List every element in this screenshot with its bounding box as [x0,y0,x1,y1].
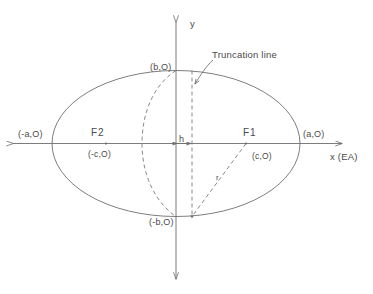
radius-line-r [192,144,246,217]
x-axis-label: x (EA) [330,152,358,162]
focus-1-label: F1 [243,128,257,138]
focus-1-marker [245,142,247,144]
focus-1-coordinate-label: (c,O) [252,152,272,161]
top-vertex-label: (b,O) [150,63,172,72]
diagram-canvas [0,0,373,294]
focus-2-marker [105,142,107,144]
focus-2-coordinate-label: (-c,O) [88,150,111,159]
y-axis-label: y [190,19,195,29]
right-vertex-label: (a,O) [303,130,325,139]
ellipse-truncation-diagram: y x (EA) Truncation line (b,O) (-b,O) (-… [0,0,373,294]
r-dimension-label: r [216,174,219,182]
truncation-line-label: Truncation line [212,50,277,60]
focus-2-label: F2 [91,128,105,138]
h-dimension-label: h [179,135,184,144]
left-vertex-label: (-a,O) [18,130,43,139]
bottom-vertex-label: (-b,O) [149,218,174,227]
truncation-bottom-marker [191,215,193,217]
